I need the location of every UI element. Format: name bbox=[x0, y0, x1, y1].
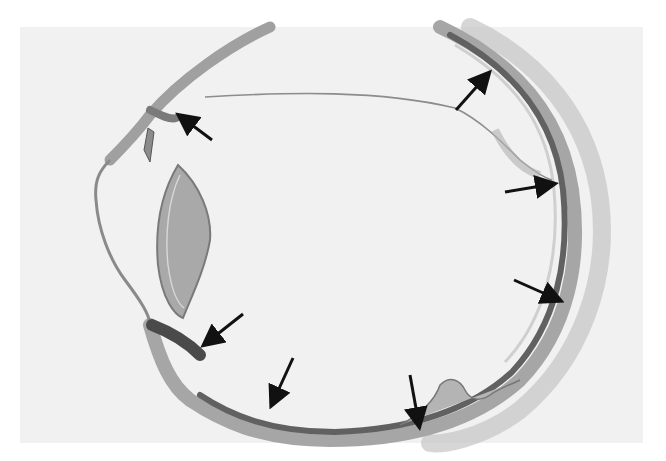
arrow-4 bbox=[514, 280, 559, 300]
arrow-2 bbox=[456, 74, 488, 110]
annotation-arrows bbox=[180, 74, 559, 425]
arrow-6 bbox=[272, 358, 293, 404]
lens bbox=[157, 165, 210, 318]
arrow-3 bbox=[505, 184, 553, 192]
arrow-1 bbox=[180, 116, 212, 140]
arrow-5 bbox=[205, 314, 243, 344]
detached-retina bbox=[205, 94, 552, 180]
eye-cross-section-micrograph bbox=[0, 0, 666, 461]
